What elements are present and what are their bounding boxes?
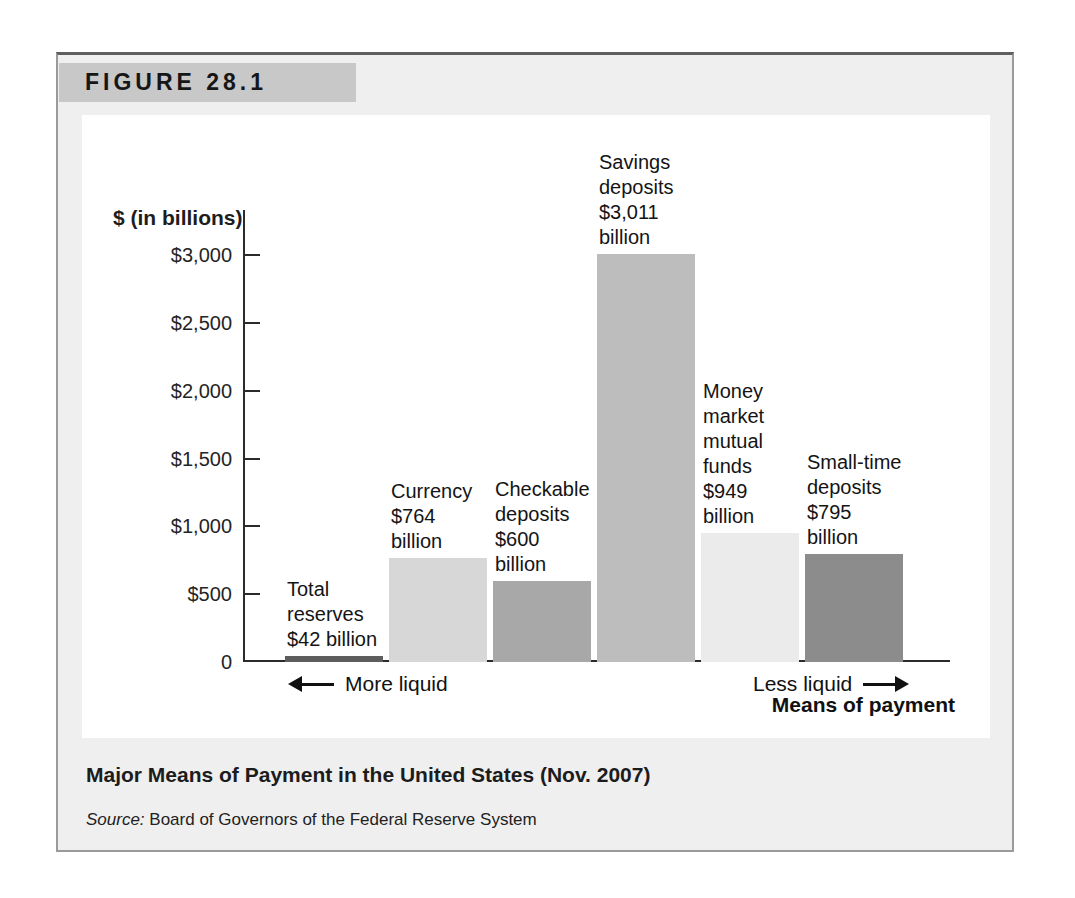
source-prefix: Source: bbox=[86, 810, 145, 829]
y-tick-mark-2000 bbox=[245, 390, 260, 392]
y-tick-label-1000: $1,000 bbox=[122, 514, 232, 538]
left-arrow-icon bbox=[288, 676, 334, 692]
y-tick-mark-2500 bbox=[245, 322, 260, 324]
y-tick-label-1500: $1,500 bbox=[122, 447, 232, 471]
figure-label: FIGURE 28.1 bbox=[85, 69, 267, 96]
y-tick-label-2000: $2,000 bbox=[122, 379, 232, 403]
bar-currency bbox=[389, 558, 487, 662]
figure-box: FIGURE 28.1 $ (in billions) More liquid … bbox=[56, 52, 1014, 852]
y-tick-mark-500 bbox=[245, 593, 260, 595]
source-text: Board of Governors of the Federal Reserv… bbox=[149, 810, 536, 829]
y-tick-mark-3000 bbox=[245, 254, 260, 256]
figure-header: FIGURE 28.1 bbox=[59, 63, 356, 102]
bar-chart: $ (in billions) More liquid Less liquid … bbox=[82, 115, 990, 738]
y-axis-title: $ (in billions) bbox=[113, 206, 243, 230]
y-tick-label-2500: $2,500 bbox=[122, 311, 232, 335]
y-tick-mark-1500 bbox=[245, 458, 260, 460]
x-axis-title: Means of payment bbox=[772, 693, 955, 717]
bar-money-market-mutual-funds bbox=[701, 533, 799, 662]
bar-label-savings-deposits: Savings deposits $3,011 billion bbox=[599, 150, 674, 250]
chart-panel: $ (in billions) More liquid Less liquid … bbox=[82, 115, 990, 738]
bar-label-total-reserves: Total reserves $42 billion bbox=[287, 577, 377, 652]
bar-label-checkable-deposits: Checkable deposits $600 billion bbox=[495, 477, 590, 577]
y-tick-label-500: $500 bbox=[122, 582, 232, 606]
bar-checkable-deposits bbox=[493, 581, 591, 662]
figure-caption: Major Means of Payment in the United Sta… bbox=[86, 763, 986, 787]
y-tick-label-3000: $3,000 bbox=[122, 243, 232, 267]
figure-source: Source: Board of Governors of the Federa… bbox=[86, 810, 986, 830]
y-tick-mark-1000 bbox=[245, 525, 260, 527]
more-liquid-annotation: More liquid bbox=[288, 671, 448, 697]
bar-savings-deposits bbox=[597, 254, 695, 662]
bar-label-money-market-mutual-funds: Money market mutual funds $949 billion bbox=[703, 379, 764, 529]
bar-label-small-time-deposits: Small-time deposits $795 billion bbox=[807, 450, 901, 550]
bar-label-currency: Currency $764 billion bbox=[391, 479, 472, 554]
right-arrow-icon bbox=[863, 676, 909, 692]
bar-total-reserves bbox=[285, 656, 383, 662]
bar-small-time-deposits bbox=[805, 554, 903, 662]
more-liquid-label: More liquid bbox=[345, 672, 448, 696]
y-tick-label-0: 0 bbox=[122, 650, 232, 674]
